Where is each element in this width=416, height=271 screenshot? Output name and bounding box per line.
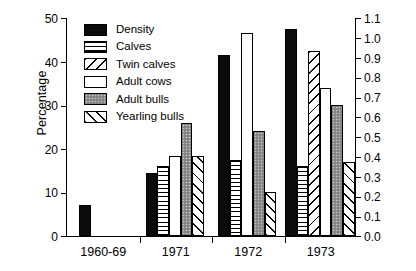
bar-density-1973 <box>285 29 297 236</box>
legend-item: Density <box>84 21 184 38</box>
y-axis-tick-label-right: 0.5 <box>364 132 381 144</box>
y-axis-tick-left <box>61 106 67 107</box>
y-axis-tick-label-left: 0 <box>51 231 58 243</box>
bar-adult-bulls-1972 <box>253 131 265 236</box>
legend-item: Adult cows <box>84 73 184 90</box>
y-axis-tick-label-left: 30 <box>45 100 58 112</box>
y-axis-tick-label-right: 0.0 <box>364 231 381 243</box>
x-axis-group-separator <box>212 236 213 243</box>
bar-adult-cows-1973 <box>320 88 332 236</box>
y-axis-tick-right <box>355 236 361 237</box>
y-axis-tick-label-right: 1.0 <box>364 33 381 45</box>
bar-calves-1971 <box>157 166 169 236</box>
legend-item: Adult bulls <box>84 91 184 108</box>
y-axis-tick-label-right: 0.9 <box>364 53 381 65</box>
legend-label: Twin calves <box>116 59 175 71</box>
bar-adult-cows-1972 <box>241 33 253 236</box>
y-axis-tick-right <box>355 58 361 59</box>
bar-density-1972 <box>218 55 230 236</box>
x-axis-category-label: 1960-69 <box>80 245 126 259</box>
bar-yearling-bulls-1972 <box>265 192 277 236</box>
legend-swatch-solid <box>84 24 107 36</box>
y-axis-tick-right <box>355 217 361 218</box>
legend-item: Calves <box>84 38 184 55</box>
y-axis-tick-left <box>61 149 67 150</box>
y-axis-tick-right <box>355 78 361 79</box>
legend-swatch-gray <box>84 93 107 105</box>
bar-twin-calves-1973 <box>308 51 320 236</box>
legend-label: Calves <box>116 41 151 53</box>
y-axis-tick-right <box>355 117 361 118</box>
bar-yearling-bulls-1973 <box>343 162 355 236</box>
y-axis-tick-right <box>355 197 361 198</box>
y-axis-tick-right <box>355 38 361 39</box>
y-axis-tick-label-right: 0.1 <box>364 211 381 223</box>
bar-density-1960-69 <box>79 205 91 236</box>
y-axis-tick-label-right: 1.1 <box>364 13 381 25</box>
chart-legend: DensityCalvesTwin calvesAdult cowsAdult … <box>84 21 184 125</box>
bar-adult-bulls-1973 <box>331 105 343 236</box>
bar-adult-cows-1971 <box>169 156 181 236</box>
x-axis-category-label: 1971 <box>162 245 190 259</box>
y-axis-tick-label-right: 0.8 <box>364 72 381 84</box>
bar-density-1971 <box>146 173 158 236</box>
y-axis-tick-label-left: 20 <box>45 144 58 156</box>
y-axis-tick-left <box>61 236 67 237</box>
y-axis-tick-left <box>61 62 67 63</box>
bar-chart: Percentage 010203040500.00.10.20.30.40.5… <box>0 0 416 271</box>
y-axis-tick-left <box>61 193 67 194</box>
legend-label: Adult cows <box>116 76 172 88</box>
legend-swatch-hline <box>84 41 107 53</box>
legend-label: Density <box>116 24 154 36</box>
legend-swatch-dslash <box>84 111 107 123</box>
y-axis-tick-label-right: 0.3 <box>364 172 381 184</box>
bar-yearling-bulls-1971 <box>192 156 204 236</box>
y-axis-tick-right <box>355 98 361 99</box>
bar-adult-bulls-1971 <box>181 123 193 236</box>
y-axis-tick-label-right: 0.6 <box>364 112 381 124</box>
y-axis-tick-right <box>355 18 361 19</box>
y-axis-tick-right <box>355 157 361 158</box>
x-axis-group-separator <box>140 236 141 243</box>
legend-swatch-empty <box>84 76 107 88</box>
y-axis-tick-label-right: 0.2 <box>364 191 381 203</box>
y-axis-tick-right <box>355 177 361 178</box>
legend-label: Yearling bulls <box>116 111 184 123</box>
y-axis-tick-label-right: 0.4 <box>364 152 381 164</box>
y-axis-tick-label-left: 10 <box>45 187 58 199</box>
bar-calves-1972 <box>230 160 242 236</box>
y-axis-tick-label-right: 0.7 <box>364 92 381 104</box>
y-axis-tick-label-left: 50 <box>45 13 58 25</box>
legend-item: Twin calves <box>84 56 184 73</box>
y-axis-tick-label-left: 40 <box>45 57 58 69</box>
x-axis-category-label: 1972 <box>234 245 262 259</box>
legend-swatch-dbackslash <box>84 58 107 70</box>
bar-calves-1973 <box>297 166 309 236</box>
y-axis-tick-left <box>61 18 67 19</box>
x-axis-category-label: 1973 <box>307 245 335 259</box>
legend-label: Adult bulls <box>116 94 169 106</box>
legend-item: Yearling bulls <box>84 108 184 125</box>
x-axis-group-separator <box>285 236 286 243</box>
y-axis-tick-right <box>355 137 361 138</box>
